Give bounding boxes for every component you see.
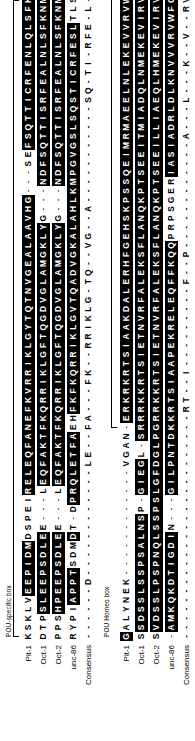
residue: S xyxy=(120,186,133,195)
residue: T xyxy=(22,104,35,113)
residue: L xyxy=(135,450,148,459)
residue: R xyxy=(150,414,163,423)
residue: T xyxy=(120,359,133,368)
residue: P xyxy=(67,496,80,505)
residue: A xyxy=(150,223,163,232)
residue: I xyxy=(150,114,163,123)
residue: G xyxy=(120,450,133,459)
residue: - xyxy=(180,486,193,495)
residue: V xyxy=(67,150,80,159)
residue: S xyxy=(150,168,163,177)
residue: L xyxy=(37,541,50,550)
residue: Q xyxy=(22,123,35,132)
residue: S xyxy=(67,0,80,4)
residue: I xyxy=(120,150,133,159)
residue: I xyxy=(135,350,148,359)
residue: R xyxy=(135,423,148,432)
residue: E xyxy=(52,523,65,532)
residue: P xyxy=(37,568,50,577)
residue: S xyxy=(120,177,133,186)
residue: S xyxy=(150,514,163,523)
residue: - xyxy=(37,514,50,523)
residue: K xyxy=(22,632,35,641)
residue: Q xyxy=(67,477,80,486)
residue: N xyxy=(135,523,148,532)
residue: R xyxy=(22,368,35,377)
sequence-pit-1: GALYNEK------------VGAN-ERKRKRTSIAAKDALE… xyxy=(120,0,133,641)
residue: P xyxy=(180,250,193,259)
residue: S xyxy=(37,104,50,113)
residue: - xyxy=(82,214,95,223)
residue: - xyxy=(82,286,95,295)
residue: K xyxy=(37,14,50,23)
residue: I xyxy=(82,323,95,332)
residue: P xyxy=(165,214,178,223)
row-label-consensus: Consensus xyxy=(84,641,93,741)
residue: - xyxy=(82,632,95,641)
residue: - xyxy=(180,41,193,50)
residue: Q xyxy=(135,86,148,95)
residue: F xyxy=(52,159,65,168)
residue: R xyxy=(120,14,133,23)
residue: V xyxy=(52,295,65,304)
residue: V xyxy=(120,4,133,13)
residue: L xyxy=(22,605,35,614)
residue: P xyxy=(150,559,163,568)
residue: - xyxy=(180,577,193,586)
residue: - xyxy=(180,350,193,359)
residue: - xyxy=(180,459,193,468)
residue: V xyxy=(67,259,80,268)
residue: T xyxy=(37,132,50,141)
residue: D xyxy=(67,550,80,559)
residue: K xyxy=(165,423,178,432)
residue: G xyxy=(22,332,35,341)
residue: A xyxy=(165,368,178,377)
residue: H xyxy=(67,414,80,423)
residue: - xyxy=(120,505,133,514)
residue: - xyxy=(52,505,65,514)
residue: F xyxy=(82,32,95,41)
residue: E xyxy=(135,150,148,159)
residue: - xyxy=(82,259,95,268)
alignment-row: Pit-1 GALYNEK------------VGAN-ERKRKRTSIA… xyxy=(119,0,134,741)
residue: E xyxy=(165,314,178,323)
residue: K xyxy=(150,259,163,268)
residue: F xyxy=(37,459,50,468)
residue: - xyxy=(180,77,193,86)
residue: - xyxy=(180,186,193,195)
row-label-oct-1: Oct-1 xyxy=(137,641,146,741)
residue: A xyxy=(82,205,95,214)
residue: A xyxy=(150,104,163,113)
residue: R xyxy=(37,395,50,404)
residue: R xyxy=(165,177,178,186)
residue: S xyxy=(82,95,95,104)
residue: V xyxy=(37,295,50,304)
residue: Q xyxy=(52,141,65,150)
residue: I xyxy=(52,114,65,123)
residue: E xyxy=(120,586,133,595)
residue: L xyxy=(22,23,35,32)
residue: M xyxy=(22,541,35,550)
residue: T xyxy=(67,295,80,304)
residue: - xyxy=(52,195,65,204)
residue: S xyxy=(135,605,148,614)
residue: R xyxy=(52,95,65,104)
residue: Q xyxy=(67,104,80,113)
sequence-unc-86: RYPIAPPTSDMDT-DPRQLETFAEHFKFKQRRIKLGVTQA… xyxy=(67,0,80,641)
residue: F xyxy=(52,23,65,32)
residue: W xyxy=(165,14,178,23)
residue: Q xyxy=(165,286,178,295)
residue: F xyxy=(37,86,50,95)
residue: S xyxy=(37,559,50,568)
residue: E xyxy=(22,505,35,514)
residue: L xyxy=(165,104,178,113)
residue: - xyxy=(180,214,193,223)
row-label-oct-1: Oct-1 xyxy=(39,641,48,741)
residue: P xyxy=(22,514,35,523)
residue: T xyxy=(135,132,148,141)
residue: T xyxy=(52,332,65,341)
residue: K xyxy=(120,577,133,586)
residue: A xyxy=(120,441,133,450)
residue: - xyxy=(180,341,193,350)
residue: E xyxy=(22,59,35,68)
